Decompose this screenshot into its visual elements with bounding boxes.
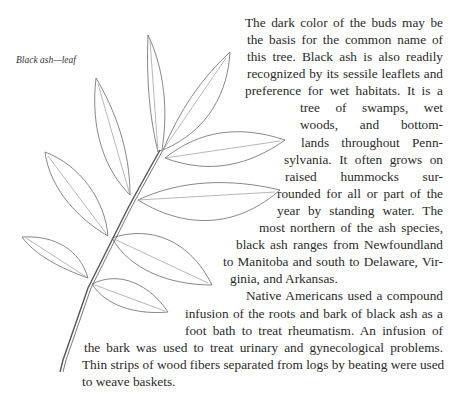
- text-line: Native Americans used a compound: [246, 287, 443, 304]
- text-line: infusion of the roots and bark of black …: [185, 305, 443, 322]
- text-line: the basis for the common name of: [247, 31, 443, 48]
- text-line: most northern of the ash species,: [259, 219, 443, 236]
- text-line: year by standing water. The: [277, 202, 443, 219]
- text-line: black ash ranges from Newfoundland: [236, 236, 443, 253]
- text-line: the bark was used to treat urinary and g…: [84, 339, 443, 356]
- text-line: this tree. Black ash is also readily: [247, 48, 443, 65]
- text-line: to weave baskets.: [82, 373, 175, 390]
- text-line: Thin strips of wood fibers separated fro…: [82, 356, 443, 373]
- text-line: preference for wet habitats. It is a: [245, 82, 443, 99]
- text-line: ginia, and Arkansas.: [230, 270, 338, 287]
- text-line: lands throughout Penn-: [301, 134, 443, 151]
- figure-caption: Black ash—leaf: [16, 55, 76, 65]
- text-line: recognized by its sessile leaflets and: [247, 65, 443, 82]
- text-line: foot bath to treat rheumatism. An infusi…: [185, 322, 443, 339]
- text-line: rounded for all or part of the: [277, 185, 443, 202]
- text-line: tree of swamps, wet: [300, 99, 443, 116]
- text-line: woods, and bottom-: [300, 116, 443, 133]
- text-line: The dark color of the buds may be: [245, 14, 443, 31]
- text-line: raised hummocks sur-: [285, 168, 443, 185]
- text-line: sylvania. It often grows on: [284, 151, 443, 168]
- text-line: to Manitoba and south to Delaware, Vir-: [223, 253, 443, 270]
